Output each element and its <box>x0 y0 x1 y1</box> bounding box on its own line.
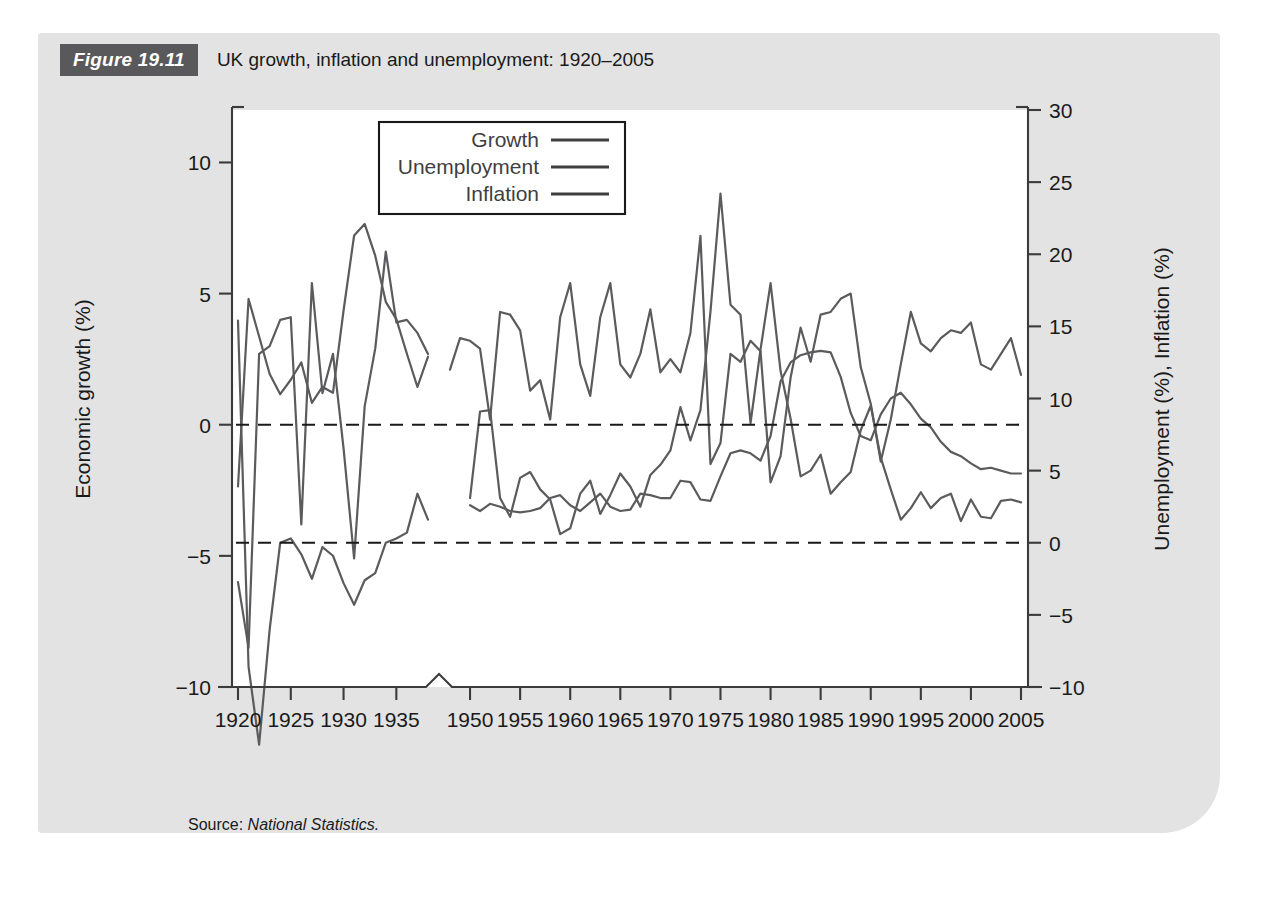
line-chart: −10−50510−10−505101520253019201925193019… <box>38 33 1220 833</box>
legend-label-inflation[interactable]: Inflation <box>465 182 539 205</box>
y-tick-label-right-10: 10 <box>1049 388 1072 411</box>
y-tick-label-right-15: 15 <box>1049 315 1072 338</box>
x-tick-label-1995: 1995 <box>897 708 944 731</box>
x-tick-label-1980: 1980 <box>747 708 794 731</box>
x-tick-label-1965: 1965 <box>597 708 644 731</box>
y-tick-label-right-0: 0 <box>1049 532 1061 555</box>
y-tick-label-right-20: 20 <box>1049 243 1072 266</box>
x-tick-label-1950: 1950 <box>447 708 494 731</box>
chart-canvas: −10−50510−10−505101520253019201925193019… <box>38 33 1220 833</box>
x-tick-label-1990: 1990 <box>847 708 894 731</box>
x-tick-label-2005: 2005 <box>998 708 1045 731</box>
x-tick-label-1955: 1955 <box>497 708 544 731</box>
x-tick-label-1925: 1925 <box>267 708 314 731</box>
y-tick-label-right-5: 5 <box>1049 460 1061 483</box>
y-tick-label-left-10: 10 <box>188 151 211 174</box>
x-tick-label-1960: 1960 <box>547 708 594 731</box>
x-tick-label-1970: 1970 <box>647 708 694 731</box>
y-tick-label-right-30: 30 <box>1049 99 1072 122</box>
x-tick-label-1935: 1935 <box>373 708 420 731</box>
source-value: National Statistics. <box>248 816 380 833</box>
y-tick-label-left--5: −5 <box>187 545 211 568</box>
chart-legend[interactable]: GrowthUnemploymentInflation <box>379 122 625 214</box>
x-tick-label-2000: 2000 <box>948 708 995 731</box>
y-tick-label-left-5: 5 <box>199 283 211 306</box>
y-axis-left-title: Economic growth (%) <box>71 299 94 499</box>
y-tick-label-right--5: −5 <box>1049 604 1073 627</box>
figure-card: Figure 19.11 UK growth, inflation and un… <box>38 33 1220 833</box>
x-tick-label-1920: 1920 <box>215 708 262 731</box>
legend-label-growth[interactable]: Growth <box>471 128 539 151</box>
y-tick-label-right--10: −10 <box>1049 676 1085 699</box>
y-tick-label-left-0: 0 <box>199 414 211 437</box>
y-tick-label-left--10: −10 <box>175 676 211 699</box>
legend-label-unemployment[interactable]: Unemployment <box>398 155 539 178</box>
source-note: Source: National Statistics. <box>188 816 379 834</box>
x-tick-label-1930: 1930 <box>320 708 367 731</box>
y-axis-right-title: Unemployment (%), Inflation (%) <box>1150 247 1173 550</box>
source-label: Source: <box>188 816 243 833</box>
x-tick-label-1975: 1975 <box>697 708 744 731</box>
x-tick-label-1985: 1985 <box>797 708 844 731</box>
y-tick-label-right-25: 25 <box>1049 171 1072 194</box>
